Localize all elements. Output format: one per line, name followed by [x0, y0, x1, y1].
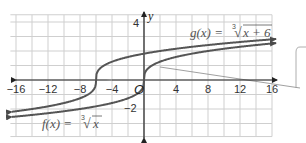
- svg-text:x + 6: x + 6: [242, 25, 271, 40]
- callout-box: [160, 47, 306, 88]
- svg-text:3: 3: [81, 114, 85, 121]
- x-tick-label: 4: [173, 83, 179, 95]
- svg-text:f(x) =: f(x) =: [42, 116, 72, 131]
- x-tick-label: −12: [39, 83, 58, 95]
- svg-text:g(x) =: g(x) =: [190, 25, 223, 40]
- cube-root-graph: −16−12−8−4481216 4 −2 y O g(x) = √ 3 x +…: [0, 0, 306, 143]
- y-axis-label: y: [147, 9, 154, 23]
- svg-text:x: x: [92, 116, 99, 131]
- translation-arrow-icon: [106, 79, 112, 81]
- x-tick-label: 8: [205, 83, 211, 95]
- x-tick-label: −16: [7, 83, 26, 95]
- x-tick-label: 12: [234, 83, 246, 95]
- y-tick-4: 4: [133, 17, 139, 29]
- g-label: g(x) = √ 3 x + 6: [190, 23, 272, 40]
- f-label: f(x) = √ 3 x: [42, 114, 102, 131]
- x-tick-label: −8: [74, 83, 87, 95]
- x-tick-label: −4: [106, 83, 119, 95]
- svg-text:3: 3: [232, 23, 236, 30]
- x-tick-label: 16: [266, 83, 278, 95]
- y-tick-neg2: −2: [124, 102, 137, 114]
- origin-label: O: [134, 82, 144, 97]
